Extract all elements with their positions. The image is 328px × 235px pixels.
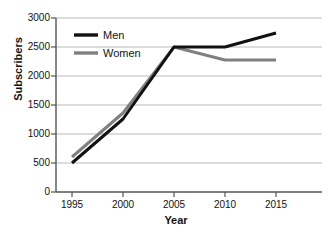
y-axis-ticks <box>51 18 56 192</box>
plot-area <box>0 0 328 235</box>
series-line-women <box>72 47 276 157</box>
legend-label-men: Men <box>103 30 124 41</box>
x-axis-ticks <box>72 192 276 197</box>
legend-label-women: Women <box>103 48 141 59</box>
line-chart: Subscribers Year 3000 2500 2000 1500 100… <box>0 0 328 235</box>
